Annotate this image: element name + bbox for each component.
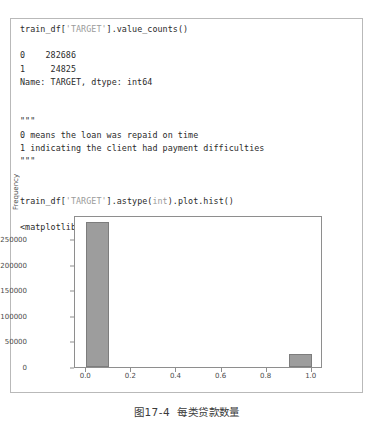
x-axis-tick-mark	[311, 368, 312, 372]
code-text-token: Name: TARGET, dtype: int64	[20, 77, 152, 87]
y-axis-tick-mark	[70, 240, 74, 241]
y-axis-tick-mark	[70, 291, 74, 292]
code-blank-line	[20, 36, 358, 49]
x-axis-tick-mark	[175, 368, 176, 372]
x-axis-tick-label: 0.6	[201, 372, 241, 380]
code-text-token: 0 means the loan was repaid on time	[20, 130, 198, 140]
y-axis-tick-label: 250000	[0, 236, 27, 244]
code-text-token: 0 282686	[20, 50, 76, 60]
code-string-token: 'TARGET'	[66, 24, 107, 34]
code-text-token: """	[20, 116, 35, 126]
x-axis-tick-mark	[130, 368, 131, 372]
y-axis-tick-mark	[70, 342, 74, 343]
x-axis-tick-label: 0.2	[110, 372, 150, 380]
figure-caption: 图17-4 每类贷款数量	[0, 404, 374, 419]
y-axis-label: Frequency	[12, 142, 20, 242]
y-axis-tick-label: 100000	[0, 313, 27, 321]
y-axis-tick-mark	[70, 368, 74, 369]
code-line: """	[20, 115, 358, 128]
y-axis-tick-mark	[70, 316, 74, 317]
code-line: 0 means the loan was repaid on time	[20, 129, 358, 142]
x-axis-tick-label: 1.0	[291, 372, 331, 380]
y-axis-tick-label: 200000	[0, 262, 27, 270]
code-blank-line	[20, 181, 358, 194]
y-axis-tick-label: 50000	[0, 338, 27, 346]
x-axis-tick-mark	[85, 368, 86, 372]
code-blank-line	[20, 89, 358, 102]
code-text-token: 1 24825	[20, 64, 76, 74]
code-line: train_df['TARGET'].value_counts()	[20, 23, 358, 36]
code-text-token: ].value_counts()	[107, 24, 188, 34]
figure-page: train_df['TARGET'].value_counts()0 28268…	[0, 0, 374, 434]
code-text-token: train_df[	[20, 24, 66, 34]
histogram-bar	[289, 354, 312, 367]
code-blank-line	[20, 168, 358, 181]
code-line: Name: TARGET, dtype: int64	[20, 76, 358, 89]
y-axis-tick-label: 0	[0, 364, 27, 372]
code-line: 1 24825	[20, 63, 358, 76]
x-axis-tick-label: 0.8	[246, 372, 286, 380]
y-axis-tick-label: 150000	[0, 287, 27, 295]
histogram-bar	[86, 222, 109, 367]
code-text-token: 1 indicating the client had payment diff…	[20, 143, 264, 153]
x-axis-tick-label: 0.4	[155, 372, 195, 380]
chart-canvas: Frequency 050000100000150000200000250000…	[14, 196, 340, 386]
code-text-token: """	[20, 156, 35, 166]
x-axis-tick-label: 0.0	[65, 372, 105, 380]
code-line: 0 282686	[20, 49, 358, 62]
code-line: """	[20, 155, 358, 168]
x-axis-tick-mark	[221, 368, 222, 372]
y-axis-tick-mark	[70, 265, 74, 266]
x-axis-tick-mark	[266, 368, 267, 372]
code-line: 1 indicating the client had payment diff…	[20, 142, 358, 155]
plot-area	[74, 216, 322, 368]
code-blank-line	[20, 102, 358, 115]
histogram-figure: Frequency 050000100000150000200000250000…	[14, 196, 340, 386]
